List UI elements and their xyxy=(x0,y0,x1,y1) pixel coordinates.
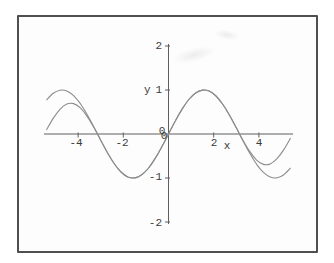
y-axis-label: y xyxy=(144,84,154,96)
x-tick-label-neg4: -4 xyxy=(64,137,88,149)
origin-label-x: 0 xyxy=(158,130,170,142)
figure-page: 2 1 -1 -2 y -4 -2 2 4 x 0 0 xyxy=(0,0,334,263)
y-tick-label-neg1: -1 xyxy=(145,171,162,183)
x-tick-label-neg2: -2 xyxy=(110,137,134,149)
y-tick-label-2: 2 xyxy=(146,40,162,52)
x-tick-label-4: 4 xyxy=(247,137,271,149)
y-tick-label-neg2: -2 xyxy=(145,217,162,229)
x-axis-label: x xyxy=(215,140,239,152)
